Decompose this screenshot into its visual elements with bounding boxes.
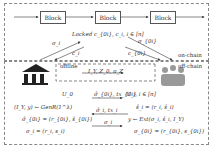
- u0-label: U_0: [62, 91, 73, 97]
- arrow-label-2: σ̂_i, tx_i: [96, 107, 118, 113]
- sigma-i-up: σ_i: [52, 40, 60, 46]
- offline-label: offline: [60, 63, 78, 69]
- right-line-3: σ_{0i} = (r_{0i}, s_{0i}): [134, 128, 204, 134]
- right-line-2: y ← Ext(σ_i, ŝ_i, I_Y): [128, 116, 184, 122]
- arrow-label-1: σ̂_{0i}, tx_{0i}: [94, 91, 137, 97]
- block-1: Block: [40, 11, 66, 24]
- block-2: Block: [95, 11, 121, 24]
- sigma-0i-up: σ_{0i}: [138, 38, 157, 44]
- arrow-label-3: σ_i: [104, 119, 112, 125]
- on-chain-label: on-chain: [178, 52, 202, 58]
- right-line-1: ŝ_i = (r_i, ŝ_i): [136, 104, 174, 110]
- locked-text: Locked c_{0i}, c_i, i ∈ [n]: [72, 31, 144, 37]
- c-0i-down: c_{0i}: [128, 50, 146, 56]
- off-chain-label: off-chain: [178, 63, 202, 69]
- left-line-3: σ_i = (r_i, s_i): [26, 128, 65, 134]
- offline-msg: I_Y, Z_0, π_Z: [88, 68, 123, 74]
- left-line-1: (I_Y, y) ← GenR(1^λ): [14, 104, 72, 110]
- bank-icon: [22, 64, 50, 85]
- c-i-down: c_i: [72, 50, 80, 56]
- left-line-2: σ̂_{0i} = (r_{0i}, ŝ_{0i}): [22, 116, 92, 122]
- block-3: Block: [150, 11, 176, 24]
